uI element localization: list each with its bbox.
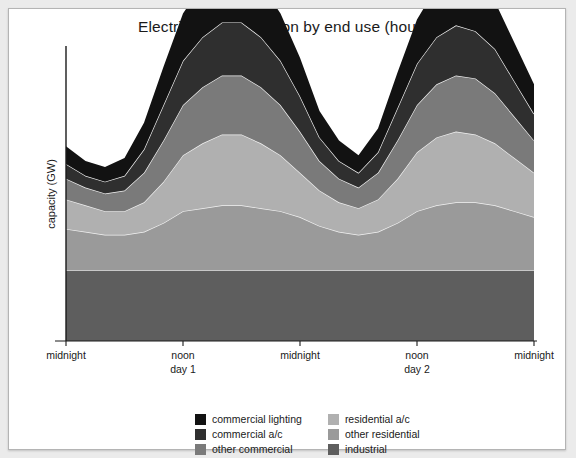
- legend-swatch-icon: [195, 444, 206, 455]
- legend-item-industrial[interactable]: industrial: [328, 443, 420, 456]
- legend-column-1: commercial lightingcommercial a/cother c…: [195, 413, 302, 456]
- legend-label: commercial lighting: [212, 414, 302, 425]
- x-tick-label: midnight: [514, 349, 554, 361]
- legend-column-2: residential a/cother residentialindustri…: [328, 413, 420, 456]
- area-industrial: [66, 270, 534, 341]
- legend-swatch-icon: [328, 444, 339, 455]
- y-axis-label: capacity (GW): [45, 159, 57, 229]
- legend-label: other residential: [345, 429, 420, 440]
- legend-swatch-icon: [195, 429, 206, 440]
- legend-swatch-icon: [195, 414, 206, 425]
- legend-swatch-icon: [328, 414, 339, 425]
- stacked-areas: [66, 9, 534, 341]
- x-axis-ticks: midnightnoonday 1midnightnoonday 2midnig…: [46, 341, 554, 375]
- chart-canvas: midnightnoonday 1midnightnoonday 2midnig…: [9, 9, 567, 451]
- legend-label: other commercial: [212, 444, 293, 455]
- chart-legend: commercial lightingcommercial a/cother c…: [195, 413, 465, 456]
- legend-label: commercial a/c: [212, 429, 283, 440]
- legend-item-residential-a-c[interactable]: residential a/c: [328, 413, 420, 426]
- legend-label: industrial: [345, 444, 387, 455]
- legend-item-other-commercial[interactable]: other commercial: [195, 443, 302, 456]
- legend-swatch-icon: [328, 429, 339, 440]
- x-tick-sublabel: day 1: [170, 363, 196, 375]
- legend-item-other-residential[interactable]: other residential: [328, 428, 420, 441]
- legend-label: residential a/c: [345, 414, 410, 425]
- legend-item-commercial-a-c[interactable]: commercial a/c: [195, 428, 302, 441]
- x-tick-label: midnight: [46, 349, 86, 361]
- legend-item-commercial-lighting[interactable]: commercial lighting: [195, 413, 302, 426]
- figure-frame: Electricity consumption by end use (hour…: [8, 8, 566, 450]
- x-tick-label: noon: [405, 349, 429, 361]
- y-axis-label-text: capacity (GW): [45, 159, 57, 229]
- x-tick-label: noon: [171, 349, 195, 361]
- x-tick-label: midnight: [280, 349, 320, 361]
- x-tick-sublabel: day 2: [404, 363, 430, 375]
